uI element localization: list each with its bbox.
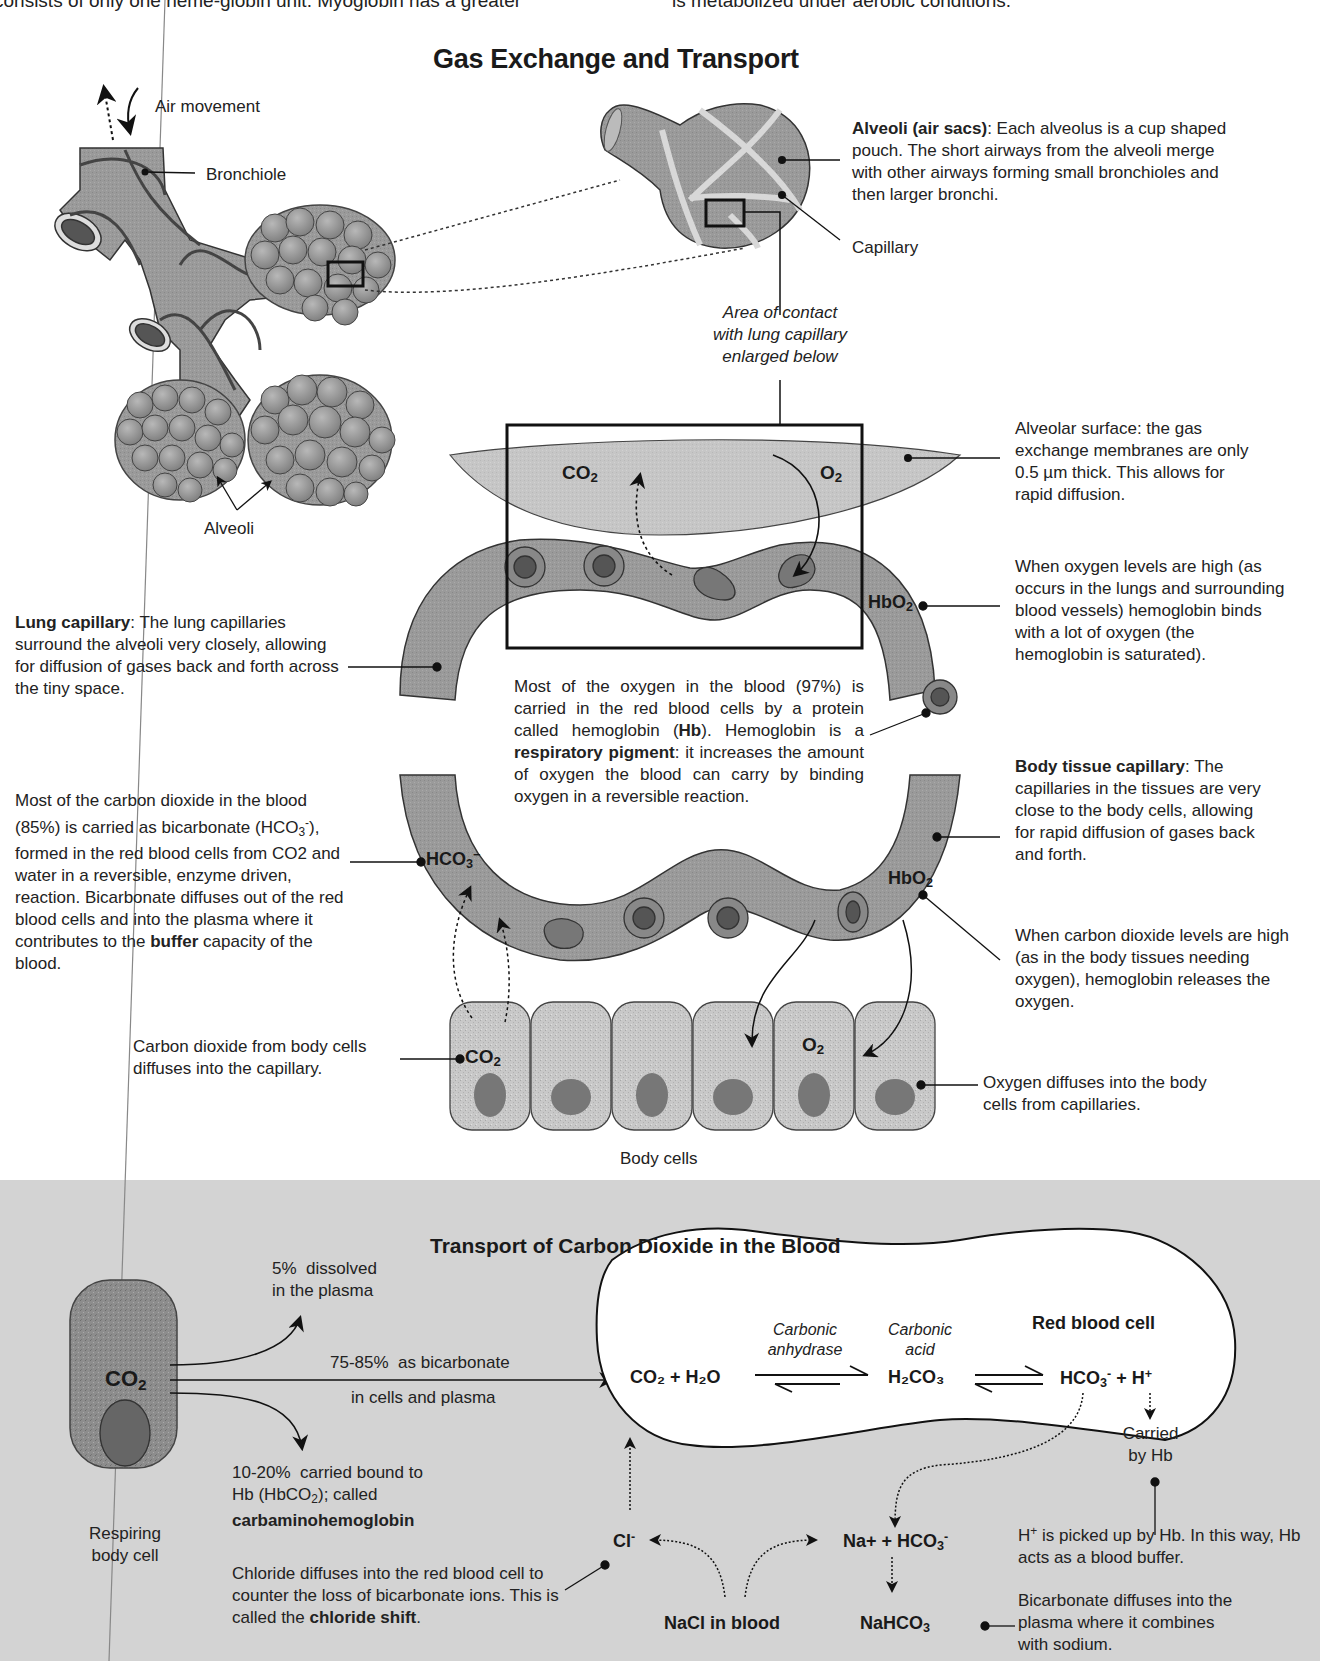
carbonic-acid-formula: H₂CO₃ [888,1367,944,1388]
respiring-cell-caption: Respiring body cell [70,1523,180,1567]
alveoli-cluster-lower-right [248,375,395,506]
lung-capillary-note: Lung capillary: The lung capillaries sur… [15,612,345,700]
sodium-bicarbonate: NaHCO3 [860,1613,930,1635]
diagram-title: Gas Exchange and Transport [433,44,799,75]
alveoli-cluster-upper [245,205,395,325]
label-capillary: Capillary [852,237,918,259]
dissolved-arrow-icon [170,1318,300,1365]
co2-from-cells-note: Carbon dioxide from body cells diffuses … [133,1036,393,1080]
co2-high-note: When carbon dioxide levels are high (as … [1015,925,1315,1013]
air-movement-arrows-icon [104,88,138,140]
alveolar-surface [450,440,960,535]
bicarbonate-note: Bicarbonate diffuses into the plasma whe… [1018,1590,1248,1656]
pathway-bicarbonate-2: in cells and plasma [351,1387,496,1409]
panel-title: Transport of Carbon Dioxide in the Blood [430,1234,841,1258]
oxygen-in-blood-note: Most of the oxygen in the blood (97%) is… [514,676,864,808]
rbc-label: Red blood cell [1032,1313,1155,1334]
label-bronchiole: Bronchiole [206,164,286,186]
nacl-in-blood: NaCl in blood [664,1613,780,1634]
h-plus-note: H+ is picked up by Hb. In this way, Hb a… [1018,1520,1318,1569]
bicarbonate-h-plus: HCO3- + H+ [1060,1367,1152,1390]
area-of-contact-label: Area of contact with lung capillary enla… [690,302,870,368]
alveoli-cluster-lower-left [115,380,245,502]
carried-by-hb-label: Carried by Hb [1108,1423,1193,1467]
co2-in-blood-note: Most of the carbon dioxide in the blood … [15,790,355,975]
label-alveoli: Alveoli [204,518,254,540]
oxygen-diffuses-note: Oxygen diffuses into the body cells from… [983,1072,1243,1116]
o2-label: O2 [820,462,842,485]
co2-body-cell-label: CO2 [465,1046,501,1069]
co2-label: CO2 [562,462,598,485]
label-body-cells: Body cells [620,1148,697,1170]
o2-body-cell-label: O2 [802,1034,824,1057]
hbo2-label-tissue: HbO2 [888,868,933,890]
alveolar-surface-note: Alveolar surface: the gas exchange membr… [1015,418,1265,506]
hbo2-label-lung: HbO2 [868,592,913,614]
sodium-bicarbonate-ions: Na+ + HCO3- [843,1530,948,1553]
nacl-to-na-arrow-icon [745,1540,815,1597]
oxygen-high-note: When oxygen levels are high (as occurs i… [1015,556,1285,666]
carbamino-arrow-icon [170,1393,302,1448]
hco3-label: HCO3− [426,848,480,871]
pathway-dissolved: 5% dissolved in the plasma [272,1258,377,1302]
chloride-ion: Cl- [613,1530,635,1552]
enlarged-alveolus [601,104,840,315]
label-air-movement: Air movement [155,96,260,118]
nacl-to-cl-arrow-icon [652,1540,725,1597]
acid-label: Carbonic acid [870,1320,970,1360]
enzyme-label: Carbonic anhydrase [755,1320,855,1360]
pathway-bicarbonate-1: 75-85% as bicarbonate [330,1352,510,1374]
reactant-co2-h2o: CO₂ + H₂O [630,1367,721,1388]
pathway-carbamino: 10-20% carried bound to Hb (HbCO2); call… [232,1462,423,1532]
respiring-co2-label: CO2 [105,1366,147,1394]
body-cells-row [450,1002,935,1130]
alveoli-note: Alveoli (air sacs): Each alveolus is a c… [852,118,1232,206]
body-tissue-capillary-note: Body tissue capillary: The capillaries i… [1015,756,1275,866]
chloride-shift-note: Chloride diffuses into the red blood cel… [232,1563,562,1629]
